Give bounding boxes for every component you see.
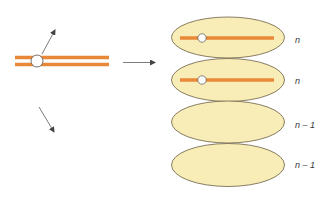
cell-4-label: n – 1 [295, 160, 315, 170]
gamete-cell-4 [172, 144, 285, 187]
centromere-icon [198, 34, 206, 42]
cell-3-label: n – 1 [295, 120, 315, 130]
gamete-cell-1 [172, 17, 285, 58]
cell-1-label: n [295, 35, 300, 45]
cell-2-label: n [295, 76, 300, 86]
centromere-icon [198, 76, 206, 84]
centromere-icon [31, 55, 43, 67]
arrow-down-right-icon [39, 107, 54, 132]
gamete-cell-3 [172, 101, 285, 143]
arrow-up-right-icon [42, 30, 55, 54]
cell-ellipse [172, 144, 285, 187]
nondisjunction-diagram: n n n – 1 n – 1 [0, 0, 333, 197]
gamete-cell-2 [172, 59, 285, 102]
source-chromosome-pair [15, 55, 109, 67]
cell-ellipse [172, 101, 285, 143]
